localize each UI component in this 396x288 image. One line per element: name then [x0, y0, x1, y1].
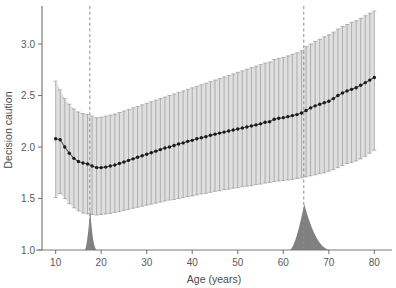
- x-tick-label: 50: [232, 257, 244, 268]
- x-tick-label: 60: [278, 257, 290, 268]
- x-tick-label: 30: [141, 257, 153, 268]
- y-axis-label-text: Decision caution: [2, 91, 14, 168]
- x-tick-label: 10: [50, 257, 62, 268]
- decision-caution-chart: 1.01.52.02.53.0 1020304050607080 Decisio…: [0, 0, 396, 288]
- y-tick-label: 1.5: [21, 193, 35, 204]
- y-tick-label: 2.5: [21, 90, 35, 101]
- y-tick-label: 1.0: [21, 245, 35, 256]
- y-tick-label: 2.0: [21, 142, 35, 153]
- x-tick-label: 70: [323, 257, 335, 268]
- x-tick-label: 40: [187, 257, 199, 268]
- x-axis-label-text: Age (years): [187, 273, 241, 285]
- y-axis-label: Decision caution: [2, 91, 14, 168]
- y-tick-label: 3.0: [21, 39, 35, 50]
- x-tick-label: 80: [369, 257, 381, 268]
- x-tick-label: 20: [96, 257, 108, 268]
